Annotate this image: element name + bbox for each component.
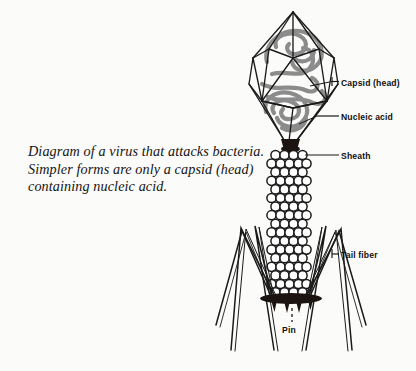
label-pin: Pin (282, 325, 296, 335)
label-nucleic-acid: Nucleic acid (341, 112, 393, 122)
label-sheath: Sheath (341, 151, 371, 161)
caption-line-1: Diagram of a virus that attacks bacteria… (28, 143, 258, 161)
label-capsid-head: Capsid (head) (341, 78, 400, 88)
figure-caption: Diagram of a virus that attacks bacteria… (28, 143, 258, 196)
label-tail-fiber: Tail fiber (341, 250, 378, 260)
caption-line-3: containing nucleic acid. (28, 178, 258, 196)
baseplate (260, 293, 322, 304)
sheath (267, 150, 311, 297)
caption-line-2: Simpler forms are only a capsid (head) (28, 161, 258, 179)
capsid-head-wireframe (249, 12, 338, 141)
figure-page: Diagram of a virus that attacks bacteria… (0, 0, 416, 371)
